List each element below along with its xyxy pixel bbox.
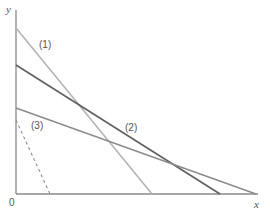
line-1 [16, 28, 152, 194]
diagram-canvas [0, 0, 270, 215]
dashed-line [16, 120, 50, 194]
origin-label: 0 [9, 198, 15, 208]
line-2-label: (2) [125, 123, 137, 133]
x-axis-label: x [254, 199, 259, 210]
line-3 [16, 108, 256, 194]
y-axis-label: y [6, 4, 11, 15]
line-3-label: (3) [31, 121, 43, 131]
line-2 [16, 65, 220, 194]
line-1-label: (1) [39, 40, 51, 50]
